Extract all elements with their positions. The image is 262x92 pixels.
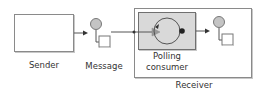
- message-icon: [91, 19, 112, 49]
- arrowhead-icon: [205, 29, 210, 34]
- output-message-icon: [214, 17, 235, 47]
- arrowhead-icon: [83, 31, 88, 36]
- edge-consumer-output: [196, 29, 210, 34]
- arrowhead-icon: [152, 28, 160, 36]
- edge-message-consumer: [111, 28, 160, 36]
- diagram-canvas: [0, 0, 262, 92]
- edge-sender-message: [74, 31, 88, 36]
- polling-loop-icon: [154, 18, 185, 44]
